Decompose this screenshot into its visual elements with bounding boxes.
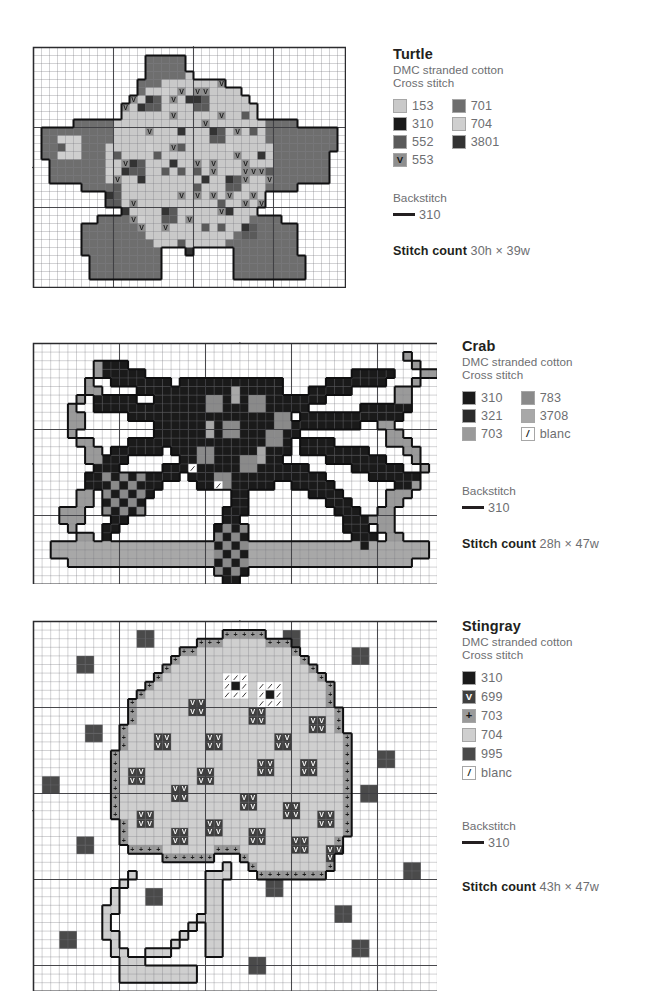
color-swatch-699: V [462,690,476,704]
legend-swatch-column-2: 701 704 3801 [452,98,500,168]
legend-item[interactable]: 3708 [521,408,571,424]
backstitch-line-icon [393,213,415,216]
backstitch-item: 310 [462,836,646,850]
legend-subtitle-material: DMC stranded cotton [462,355,646,368]
backstitch-line-icon [462,841,484,844]
legend-title: Crab [462,338,646,354]
legend-item[interactable]: 704 [462,727,512,743]
color-swatch-blanc: / [462,766,476,780]
legend-item[interactable]: 703 [462,426,503,442]
color-swatch-552 [393,135,407,149]
thread-code-label: 310 [481,671,503,685]
color-swatch-704 [452,117,466,131]
pattern-block-crab: Crab DMC stranded cotton Cross stitch 31… [0,330,646,610]
legend-item[interactable]: 310 [462,670,512,686]
backstitch-heading: Backstitch [462,484,646,498]
legend-swatch-column-1: 153 310 552 [393,98,434,168]
color-swatch-3801 [452,135,466,149]
legend-item[interactable]: 3801 [452,134,500,150]
chart-canvas-crab [32,342,437,584]
color-swatch-701 [452,99,466,113]
legend-item[interactable]: 704 [452,116,500,132]
thread-code-label: 703 [481,427,503,441]
chart-canvas-stingray [32,620,437,991]
stitch-count-label: Stitch count [462,880,536,894]
swatch-symbol [453,136,465,148]
legend-item[interactable]: 310 [462,390,503,406]
color-swatch-703: + [462,709,476,723]
legend-swatch-columns: 310 321 703 [462,390,646,442]
legend-swatch-column-1: 310 321 703 [462,390,503,442]
stitch-count-value: 28h × 47w [540,537,599,551]
legend-item[interactable]: V 553 [393,152,434,168]
legend-item[interactable]: 552 [393,134,434,150]
legend-item[interactable]: + 703 [462,708,512,724]
swatch-symbol: V [394,154,406,166]
thread-code-label: 310 [412,117,434,131]
thread-code-label: 704 [471,117,493,131]
thread-code-label: blanc [540,427,571,441]
color-swatch-153 [393,99,407,113]
legend-subtitle-material: DMC stranded cotton [462,635,646,648]
backstitch-item: 310 [462,501,646,515]
thread-code-label: 704 [481,728,503,742]
thread-code-label: 3801 [471,135,500,149]
legend-item[interactable]: / blanc [521,426,571,442]
legend-item[interactable]: 701 [452,98,500,114]
thread-code-label: 552 [412,135,434,149]
swatch-symbol [463,410,475,422]
legend-title: Stingray [462,618,646,634]
swatch-symbol: + [463,710,475,722]
backstitch-item: 310 [393,208,643,222]
backstitch-line-icon [462,506,484,509]
stitch-count-value: 30h × 39w [471,244,530,258]
legend-item[interactable]: 783 [521,390,571,406]
color-swatch-704 [462,728,476,742]
thread-code-label: 995 [481,747,503,761]
cross-stitch-pattern-page: Turtle DMC stranded cotton Cross stitch … [0,0,646,1001]
thread-code-label: 699 [481,690,503,704]
chart-crab [32,342,437,584]
swatch-symbol [453,100,465,112]
swatch-symbol [394,136,406,148]
color-swatch-310 [462,671,476,685]
swatch-symbol [522,392,534,404]
thread-code-label: 3708 [540,409,569,423]
stitch-count-row: Stitch count 43h × 47w [462,880,646,894]
legend-stingray: Stingray DMC stranded cotton Cross stitc… [462,618,646,894]
thread-code-label: 701 [471,99,493,113]
legend-swatch-column-1: 310 V 699 + 703 [462,670,512,781]
legend-subtitle-technique: Cross stitch [393,76,643,89]
color-swatch-310 [462,391,476,405]
stitch-count-label: Stitch count [462,537,536,551]
legend-subtitle-technique: Cross stitch [462,648,646,661]
legend-item[interactable]: 321 [462,408,503,424]
backstitch-code-label: 310 [488,836,510,850]
chart-canvas-turtle [32,46,346,288]
thread-code-label: 153 [412,99,434,113]
stitch-count-row: Stitch count 30h × 39w [393,244,643,258]
stitch-count-value: 43h × 47w [540,880,599,894]
thread-code-label: 321 [481,409,503,423]
legend-item[interactable]: V 699 [462,689,512,705]
swatch-symbol [522,410,534,422]
legend-title: Turtle [393,46,643,62]
thread-code-label: 783 [540,391,562,405]
legend-subtitle-technique: Cross stitch [462,368,646,381]
swatch-symbol: V [463,691,475,703]
thread-code-label: 553 [412,153,434,167]
legend-item[interactable]: 310 [393,116,434,132]
stitch-count-row: Stitch count 28h × 47w [462,537,646,551]
legend-swatch-column-2: 783 3708 / blanc [521,390,571,442]
swatch-symbol [453,118,465,130]
backstitch-heading: Backstitch [462,819,646,833]
swatch-symbol [463,748,475,760]
legend-item[interactable]: / blanc [462,765,512,781]
chart-turtle [32,46,346,288]
legend-subtitle-material: DMC stranded cotton [393,63,643,76]
legend-item[interactable]: 995 [462,746,512,762]
chart-stingray [32,620,437,991]
swatch-symbol [394,118,406,130]
thread-code-label: 703 [481,709,503,723]
legend-item[interactable]: 153 [393,98,434,114]
